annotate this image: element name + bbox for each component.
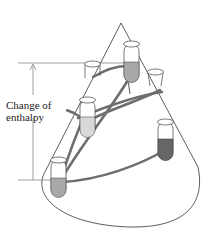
start-tube <box>51 157 67 198</box>
enthalpy-label: Change of enthalpy <box>6 99 76 123</box>
end-tube <box>124 41 140 83</box>
lower-right-tube <box>158 119 174 161</box>
enthalpy-label-line2: enthalpy <box>6 111 76 123</box>
middle-left-tube <box>80 97 96 138</box>
path-via-middle-left <box>62 90 160 176</box>
enthalpy-label-line1: Change of <box>6 99 76 111</box>
cone-outline <box>42 23 200 227</box>
